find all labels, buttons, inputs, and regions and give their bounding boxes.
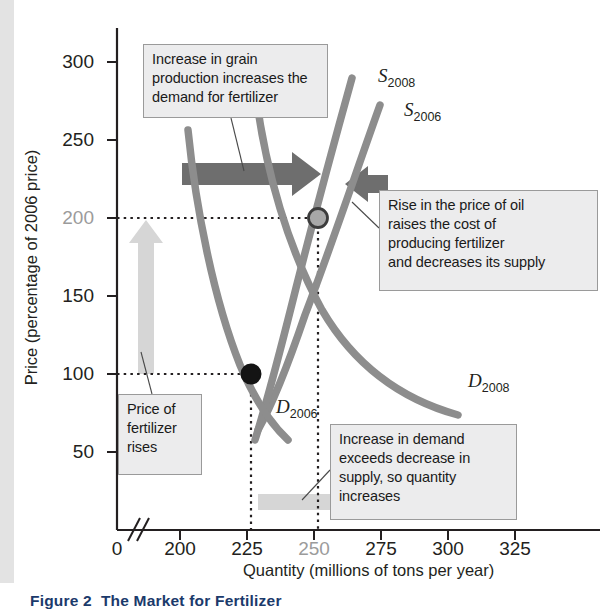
supply-2006-letter: S [404,99,414,120]
callout-line: rises [127,438,194,457]
x-tick-225: 225 [220,538,274,560]
figure-caption-title: The Market for Fertilizer [101,592,282,609]
x-tick-250: 250 [287,538,341,560]
y-tick-100: 100 [48,363,94,385]
callout-line: raises the cost of [388,215,590,234]
demand-2008-letter: D [468,370,482,391]
callout-line: Rise in the price of oil [388,196,590,215]
equilibrium-2008-marker [309,209,328,228]
y-tick-200: 200 [48,207,94,229]
increase-in-demand-callout: Increase in grain production increases t… [143,44,328,118]
demand-2006-subscript: 2006 [290,407,318,421]
x-axis-title: Quantity (millions of tons per year) [243,561,494,580]
callout-line: exceeds decrease in [339,449,509,468]
callout-line: increases [339,487,509,506]
figure-caption-number: Figure 2 [30,592,92,609]
y-tick-300: 300 [48,51,94,73]
demand-curve-2008-label: D2008 [468,370,510,395]
figure-caption: Figure 2 The Market for Fertilizer [30,592,282,610]
x-tick-0: 0 [90,538,144,560]
quantity-increases-callout: Increase in demand exceeds decrease in s… [330,424,517,520]
callout-line: and decreases its supply [388,253,590,272]
callout-line: Increase in demand [339,430,509,449]
callout-line: fertilizer [127,419,194,438]
figure-container: 300 250 200 150 100 50 0 200 225 250 275… [0,0,615,610]
price-rise-arrow [129,220,163,374]
supply-2008-letter: S [378,65,388,86]
x-tick-325: 325 [488,538,542,560]
callout-line: supply, so quantity [339,468,509,487]
demand-2006-letter: D [276,396,290,417]
x-tick-300: 300 [421,538,475,560]
price-rises-callout: Price of fertilizer rises [118,394,202,475]
supply-curve-2008-label: S2008 [378,65,415,90]
x-tick-275: 275 [354,538,408,560]
rise-in-oil-price-callout: Rise in the price of oil raises the cost… [379,190,598,291]
demand-shift-arrow [182,152,321,196]
y-tick-150: 150 [48,285,94,307]
x-tick-200: 200 [153,538,207,560]
supply-2006-subscript: 2006 [414,110,442,124]
y-tick-50: 50 [48,441,94,463]
supply-curve-2008 [255,78,352,440]
callout-line: Increase in grain [152,50,320,69]
callout-line: Price of [127,400,194,419]
demand-2008-subscript: 2008 [482,381,510,395]
equilibrium-2006-marker [242,365,261,384]
supply-2008-subscript: 2008 [388,76,416,90]
y-tick-250: 250 [48,129,94,151]
y-axis-ticks [107,62,117,452]
y-axis-title: Price (percentage of 2006 price) [22,103,41,433]
callout-line: production increases the [152,69,320,88]
callout-line: producing fertilizer [388,234,590,253]
demand-curve-2006-label: D2006 [276,396,318,421]
supply-curve-2006-label: S2006 [404,99,441,124]
callout-line: demand for fertilizer [152,88,320,107]
